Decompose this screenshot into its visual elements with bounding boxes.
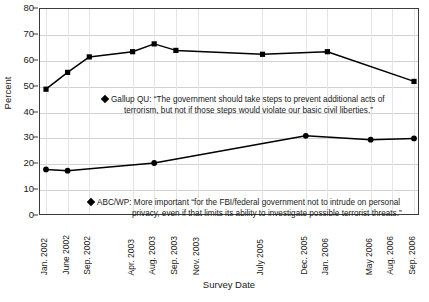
x-tick-label: Jan. 2006 bbox=[321, 238, 330, 275]
x-tick-label: Aug. 2006 bbox=[386, 236, 395, 275]
x-axis-ticks: Jan. 2002June 2002Sep. 2002Apr. 2003Aug.… bbox=[39, 217, 419, 275]
y-tick-mark bbox=[33, 111, 38, 112]
x-tick-label: Apr. 2003 bbox=[127, 239, 136, 275]
data-point-square bbox=[87, 54, 92, 59]
data-point-square bbox=[43, 87, 48, 92]
data-point-square bbox=[260, 52, 265, 57]
series-line-abcwp bbox=[46, 136, 414, 171]
y-tick-mark bbox=[33, 85, 38, 86]
legend-abc: ABC/WP: More important “for the FBI/fede… bbox=[88, 198, 402, 219]
chart-container: 01020304050607080 Percent Gallup QU: “Th… bbox=[0, 0, 429, 302]
legend-gallup-text1: Gallup QU: “The government should take s… bbox=[111, 95, 385, 104]
data-point-circle bbox=[65, 168, 71, 174]
x-tick-label: Sep. 2002 bbox=[83, 236, 92, 275]
data-point-square bbox=[65, 70, 70, 75]
data-point-square bbox=[411, 79, 416, 84]
data-point-square bbox=[325, 49, 330, 54]
data-point-circle bbox=[151, 160, 157, 166]
data-point-square bbox=[152, 41, 157, 46]
legend-abc-line1: ABC/WP: More important “for the FBI/fede… bbox=[88, 198, 402, 209]
legend-abc-text1: ABC/WP: More important “for the FBI/fede… bbox=[97, 198, 400, 207]
y-tick-mark bbox=[33, 163, 38, 164]
x-tick-label: Sep. 2006 bbox=[408, 236, 417, 275]
diamond-marker-icon bbox=[101, 95, 109, 103]
y-tick-mark bbox=[33, 59, 38, 60]
series-line-gallup bbox=[46, 44, 414, 89]
x-tick-label: Jan. 2002 bbox=[40, 238, 49, 275]
y-tick-mark bbox=[33, 137, 38, 138]
diamond-marker-icon-2 bbox=[87, 198, 95, 206]
x-tick-label: Sep. 2003 bbox=[170, 236, 179, 275]
x-axis-label: Survey Date bbox=[39, 279, 419, 290]
x-tick-label: Dec. 2005 bbox=[300, 236, 309, 275]
data-point-circle bbox=[368, 137, 374, 143]
y-tick-mark bbox=[33, 8, 38, 9]
x-tick-label: Aug. 2003 bbox=[148, 236, 157, 275]
y-tick-mark bbox=[33, 215, 38, 216]
plot-area: Gallup QU: “The government should take s… bbox=[39, 8, 419, 215]
data-point-circle bbox=[303, 133, 309, 139]
legend-gallup: Gallup QU: “The government should take s… bbox=[102, 95, 385, 116]
data-point-square bbox=[130, 49, 135, 54]
y-axis-label: Percent bbox=[3, 61, 13, 125]
legend-gallup-text2: terrorism, but not if those steps would … bbox=[102, 106, 385, 117]
y-tick-mark bbox=[33, 189, 38, 190]
x-tick-label: May 2006 bbox=[365, 238, 374, 275]
x-tick-label: Nov. 2003 bbox=[192, 237, 201, 275]
legend-gallup-line1: Gallup QU: “The government should take s… bbox=[102, 95, 385, 106]
data-point-square bbox=[173, 48, 178, 53]
y-tick-mark bbox=[33, 33, 38, 34]
x-tick-label: June 2002 bbox=[62, 235, 71, 275]
x-tick-label: July 2005 bbox=[256, 239, 265, 275]
data-point-circle bbox=[43, 167, 49, 173]
data-point-circle bbox=[411, 136, 417, 142]
